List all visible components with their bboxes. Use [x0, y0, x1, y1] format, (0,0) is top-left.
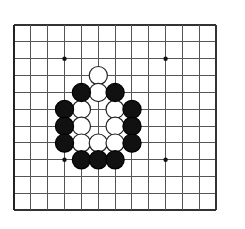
- white-stone[interactable]: [106, 100, 124, 118]
- black-stone-disc[interactable]: [123, 100, 141, 118]
- white-stone-disc[interactable]: [72, 134, 90, 152]
- white-stone-disc[interactable]: [106, 117, 124, 135]
- black-stone-disc[interactable]: [72, 83, 90, 101]
- white-stone[interactable]: [89, 134, 107, 152]
- star-point: [62, 57, 66, 61]
- black-stone[interactable]: [72, 83, 90, 101]
- black-stone-disc[interactable]: [55, 134, 73, 152]
- black-stone[interactable]: [55, 100, 73, 118]
- black-stone-disc[interactable]: [89, 151, 107, 169]
- black-stone-disc[interactable]: [55, 100, 73, 118]
- black-stone[interactable]: [89, 151, 107, 169]
- goban-canvas[interactable]: [0, 0, 245, 229]
- black-stone-disc[interactable]: [123, 117, 141, 135]
- black-stone-disc[interactable]: [106, 151, 124, 169]
- white-stone[interactable]: [89, 83, 107, 101]
- star-point: [62, 158, 66, 162]
- white-stone[interactable]: [72, 100, 90, 118]
- black-stone[interactable]: [123, 117, 141, 135]
- white-stone-disc[interactable]: [106, 100, 124, 118]
- white-stone-disc[interactable]: [72, 117, 90, 135]
- white-stone[interactable]: [106, 117, 124, 135]
- white-stone-disc[interactable]: [106, 134, 124, 152]
- white-stone-disc[interactable]: [89, 83, 107, 101]
- white-stone[interactable]: [106, 134, 124, 152]
- white-stone-disc[interactable]: [89, 134, 107, 152]
- white-stone[interactable]: [89, 67, 107, 85]
- white-stone[interactable]: [72, 117, 90, 135]
- black-stone[interactable]: [106, 83, 124, 101]
- white-stone-disc[interactable]: [89, 67, 107, 85]
- black-stone-disc[interactable]: [106, 83, 124, 101]
- star-point: [163, 57, 167, 61]
- black-stone-disc[interactable]: [72, 151, 90, 169]
- white-stone[interactable]: [72, 134, 90, 152]
- black-stone[interactable]: [72, 151, 90, 169]
- black-stone[interactable]: [55, 117, 73, 135]
- black-stone[interactable]: [123, 134, 141, 152]
- black-stone[interactable]: [106, 151, 124, 169]
- black-stone[interactable]: [55, 134, 73, 152]
- black-stone[interactable]: [123, 100, 141, 118]
- go-board-figure: [0, 0, 245, 229]
- black-stone-disc[interactable]: [55, 117, 73, 135]
- star-point: [163, 158, 167, 162]
- white-stone-disc[interactable]: [72, 100, 90, 118]
- black-stone-disc[interactable]: [123, 134, 141, 152]
